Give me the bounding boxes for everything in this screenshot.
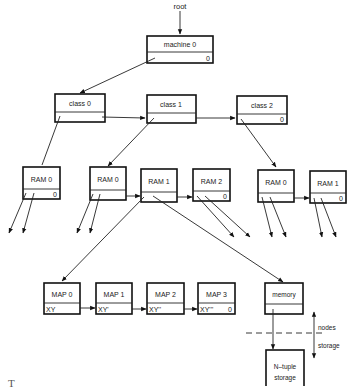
ram-node-4[interactable]: RAM 0 <box>258 170 294 202</box>
class-node-1[interactable]: class 1 <box>147 95 196 123</box>
map-field: XY''' <box>200 306 213 313</box>
map-name: MAP 1 <box>104 291 125 298</box>
class-name: class 0 <box>69 100 91 107</box>
map-node-1[interactable]: MAP 1 XY' <box>96 283 132 314</box>
edge-ram1-map0 <box>62 197 144 281</box>
machine-field: 0 <box>206 55 210 62</box>
class-field: 0 <box>280 116 284 123</box>
edge-ram1-memory <box>153 196 283 282</box>
edge-class2-ram <box>241 119 276 167</box>
edge-class0-ram <box>42 116 60 165</box>
ram-field: 0 <box>53 191 57 198</box>
storage-label: storage <box>318 342 340 350</box>
memory-node[interactable]: memory <box>265 283 303 314</box>
ram-name: RAM 0 <box>97 176 119 183</box>
map-name: MAP 2 <box>155 291 176 298</box>
ram-node-3[interactable]: RAM 2 0 <box>193 169 230 201</box>
map-name: MAP 0 <box>52 291 73 298</box>
map-terminator: 0 <box>228 306 232 313</box>
map-node-0[interactable]: MAP 0 XY <box>44 283 80 314</box>
ram-field: 0 <box>339 195 343 202</box>
root-label: root <box>174 2 188 11</box>
ram-node-0[interactable]: RAM 0 0 <box>23 167 60 199</box>
ram-name: RAM 0 <box>31 176 53 183</box>
map-field: XY <box>46 306 56 313</box>
ram-node-2[interactable]: RAM 1 <box>141 169 177 202</box>
class-name: class 1 <box>160 101 182 108</box>
ram-name: RAM 1 <box>148 178 170 185</box>
ram-name: RAM 1 <box>317 180 339 187</box>
machine-name: machine 0 <box>164 41 196 48</box>
edge-machine-class0 <box>80 58 155 93</box>
memory-name: memory <box>272 291 296 299</box>
map-node-3[interactable]: MAP 3 XY''' 0 <box>198 283 235 314</box>
ram-name: RAM 2 <box>201 178 223 185</box>
class-name: class 2 <box>251 102 273 109</box>
map-field: XY'' <box>149 306 161 313</box>
edge-class0-class1 <box>102 117 145 118</box>
edge-class1-ram <box>108 118 154 166</box>
ram-name: RAM 0 <box>265 179 287 186</box>
map-field: XY' <box>98 306 109 313</box>
class-node-0[interactable]: class 0 <box>55 94 105 122</box>
figure-caption-partial: T <box>8 377 52 389</box>
ram-node-1[interactable]: RAM 0 <box>90 167 126 200</box>
storage-line1: N–tuple <box>274 363 297 371</box>
class-node-2[interactable]: class 2 0 <box>237 96 287 124</box>
map-node-2[interactable]: MAP 2 XY'' <box>147 283 184 314</box>
machine-node[interactable]: machine 0 0 <box>147 36 213 63</box>
ram-field: 0 <box>223 193 227 200</box>
ram-node-5[interactable]: RAM 1 0 <box>310 171 346 203</box>
ntuple-storage-node[interactable]: N–tuple storage <box>266 350 304 386</box>
nodes-label: nodes <box>318 324 336 331</box>
map-name: MAP 3 <box>206 291 227 298</box>
storage-line2: storage <box>274 374 296 382</box>
